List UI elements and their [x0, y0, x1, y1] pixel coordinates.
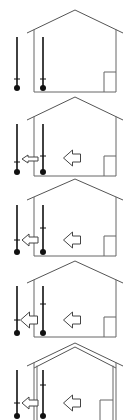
- heat-flow-wall-arrow-icon: [22, 397, 38, 409]
- thermometer-bulb: [40, 85, 46, 91]
- door: [104, 236, 116, 256]
- door: [104, 156, 116, 176]
- heat-flow-room-arrow-icon: [64, 232, 81, 248]
- roof-line: [27, 261, 123, 283]
- house-panel-4: [14, 261, 123, 337]
- outdoor-thermometer: [14, 286, 20, 336]
- thermometer-bulb: [40, 330, 46, 336]
- thermometer-bulb: [14, 330, 20, 336]
- thermometer-bulb: [40, 169, 46, 175]
- heat-flow-room-arrow-icon: [64, 395, 81, 411]
- thermometer-bulb: [14, 249, 20, 255]
- door: [104, 317, 116, 337]
- roof-line: [27, 10, 123, 33]
- house-panel-5: [14, 343, 123, 420]
- heat-flow-room-arrow-icon: [64, 150, 81, 166]
- house-panel-1: [14, 10, 123, 92]
- outdoor-thermometer: [14, 370, 20, 419]
- indoor-thermometer: [40, 124, 46, 175]
- roof-line: [27, 97, 123, 120]
- heat-flow-wall-arrow-icon: [22, 155, 38, 163]
- indoor-thermometer: [40, 205, 46, 255]
- indoor-thermometer: [40, 370, 46, 419]
- diagram-canvas: [0, 0, 134, 420]
- thermometer-bulb: [40, 413, 46, 419]
- roof-line: [27, 179, 123, 200]
- outdoor-thermometer: [14, 124, 20, 175]
- heat-flow-wall-arrow-icon: [22, 234, 38, 246]
- thermometer-bulb: [40, 249, 46, 255]
- door: [100, 400, 113, 420]
- house-panel-3: [14, 179, 123, 256]
- outdoor-thermometer: [14, 205, 20, 255]
- thermometer-bulb: [14, 413, 20, 419]
- thermometer-bulb: [14, 169, 20, 175]
- indoor-thermometer: [40, 37, 46, 91]
- heat-flow-room-arrow-icon: [64, 312, 81, 328]
- roof-inner-line: [34, 347, 116, 368]
- heat-loss-diagram: [0, 0, 134, 420]
- heat-flow-wall-arrow-icon: [21, 312, 38, 328]
- thermometer-bulb: [14, 85, 20, 91]
- door: [104, 72, 116, 92]
- indoor-thermometer: [40, 286, 46, 336]
- house-panel-2: [14, 97, 123, 176]
- outdoor-thermometer: [14, 37, 20, 91]
